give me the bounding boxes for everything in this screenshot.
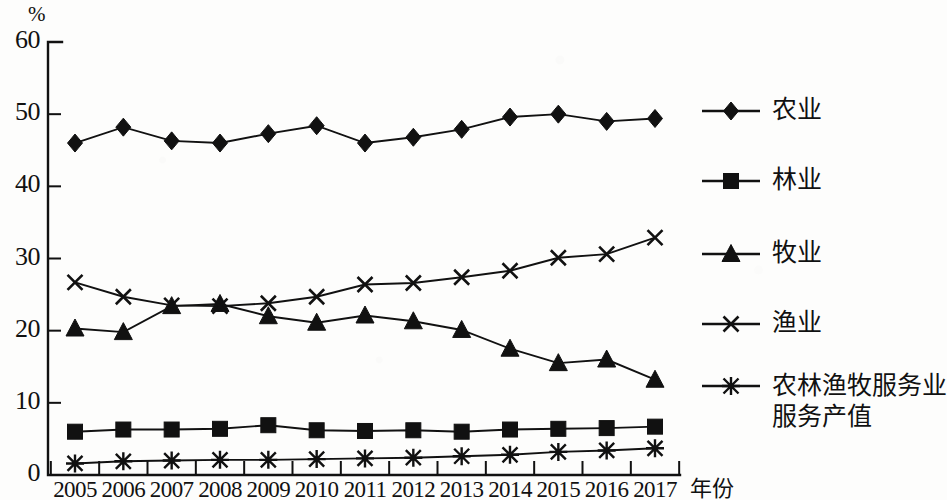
data-point-marker-triangle — [66, 319, 84, 336]
data-point-marker-triangle — [598, 350, 616, 367]
data-point-marker-star — [453, 447, 471, 465]
legend-label-line2: 服务产值 — [772, 401, 947, 432]
legend-label: 渔业 — [772, 308, 822, 338]
data-point-marker-x — [648, 230, 663, 245]
y-axis-tick-label: 50 — [0, 97, 40, 127]
data-point-marker-star — [308, 450, 326, 468]
legend-label-line1: 农业 — [772, 95, 822, 125]
x-axis-title: 年份 — [690, 470, 734, 500]
data-point-marker-diamond — [358, 134, 373, 152]
data-point-marker-star — [646, 439, 664, 457]
data-point-marker-star — [114, 452, 132, 470]
data-point-marker-diamond — [309, 117, 324, 135]
legend-label: 林业 — [772, 165, 822, 195]
data-point-marker-diamond — [116, 118, 131, 136]
legend-marker-square-icon — [700, 167, 762, 195]
legend-item-2[interactable]: 林业 — [700, 165, 822, 195]
legend-label-line1: 牧业 — [772, 238, 822, 268]
data-point-marker-star — [549, 443, 567, 461]
legend-item-1[interactable]: 农业 — [700, 95, 822, 125]
series-5 — [66, 439, 664, 472]
data-point-marker-triangle — [501, 339, 519, 356]
x-axis-tick-label: 2017 — [625, 477, 685, 500]
data-point-marker-triangle — [356, 306, 374, 323]
y-axis-tick-label: 0 — [0, 458, 40, 488]
data-point-marker-square — [68, 424, 83, 439]
data-point-marker-square — [116, 422, 131, 437]
legend-marker-triangle-icon — [700, 240, 762, 268]
series-1 — [68, 105, 663, 152]
data-point-marker-star — [163, 452, 181, 470]
legend-item-5[interactable]: 农林渔牧服务业服务产值 — [700, 370, 947, 432]
y-axis-tick-label: 60 — [0, 25, 40, 55]
data-point-marker-square — [503, 422, 518, 437]
legend-item-3[interactable]: 牧业 — [700, 238, 822, 268]
data-point-marker-square — [454, 424, 469, 439]
series-line — [75, 238, 655, 307]
legend-label: 农林渔牧服务业服务产值 — [772, 370, 947, 432]
data-point-marker-diamond — [213, 134, 228, 152]
data-point-marker-triangle — [211, 294, 229, 311]
legend-marker-x-icon — [700, 310, 762, 338]
data-point-marker-diamond — [724, 102, 739, 120]
data-point-marker-diamond — [551, 105, 566, 123]
y-axis-tick-label: 20 — [0, 314, 40, 344]
data-point-marker-star — [501, 446, 519, 464]
data-point-marker-square — [358, 423, 373, 438]
data-point-marker-square — [551, 421, 566, 436]
data-point-marker-diamond — [503, 108, 518, 126]
data-point-marker-star — [598, 441, 616, 459]
data-point-marker-diamond — [68, 134, 83, 152]
legend-label-line1: 农林渔牧服务业 — [772, 370, 947, 401]
data-point-marker-diamond — [454, 120, 469, 138]
data-point-marker-square — [309, 423, 324, 438]
data-point-marker-star — [356, 449, 374, 467]
y-axis-tick-label: 40 — [0, 169, 40, 199]
data-point-marker-diamond — [599, 112, 614, 130]
legend-label: 农业 — [772, 95, 822, 125]
data-point-marker-star — [66, 454, 84, 472]
series-2 — [68, 418, 663, 439]
data-point-marker-square — [648, 419, 663, 434]
legend-marker-star-icon — [700, 372, 762, 400]
legend-label-line1: 渔业 — [772, 308, 822, 338]
legend-label: 牧业 — [772, 238, 822, 268]
data-point-marker-square — [406, 423, 421, 438]
data-point-marker-star — [211, 451, 229, 469]
data-point-marker-diamond — [261, 125, 276, 143]
data-point-marker-star — [404, 449, 422, 467]
data-point-marker-square — [599, 421, 614, 436]
data-point-marker-diamond — [406, 128, 421, 146]
data-point-marker-square — [261, 418, 276, 433]
legend-item-4[interactable]: 渔业 — [700, 308, 822, 338]
data-point-marker-triangle — [646, 370, 664, 387]
legend-marker-diamond-icon — [700, 97, 762, 125]
data-point-marker-diamond — [164, 132, 179, 150]
series-4 — [68, 230, 663, 314]
data-point-marker-square — [724, 174, 739, 189]
data-point-marker-star — [259, 451, 277, 469]
y-axis-tick-label: 10 — [0, 386, 40, 416]
data-point-marker-square — [164, 422, 179, 437]
data-point-marker-square — [213, 421, 228, 436]
data-point-marker-diamond — [648, 109, 663, 127]
y-axis-tick-label: 30 — [0, 242, 40, 272]
chart-axes — [48, 42, 680, 475]
legend-label-line1: 林业 — [772, 165, 822, 195]
series-3 — [66, 294, 664, 387]
data-point-marker-star — [722, 377, 740, 395]
data-point-marker-x — [68, 275, 83, 290]
